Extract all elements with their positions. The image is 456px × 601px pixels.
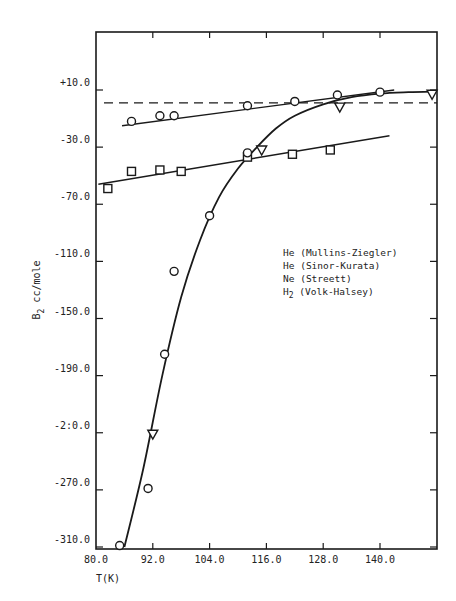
hexagon-circle-marker xyxy=(291,97,299,105)
h2-fit-curve xyxy=(124,91,436,547)
data-markers xyxy=(104,88,437,549)
square-marker xyxy=(177,167,185,175)
legend-entry: He (Mullins-Ziegler) xyxy=(283,247,397,258)
circle-marker xyxy=(161,350,169,358)
circle-marker xyxy=(206,212,214,220)
triangle-down-marker xyxy=(335,103,345,112)
circle-marker xyxy=(116,542,124,550)
hexagon-circle-marker xyxy=(170,112,178,120)
y-tick-label: -2:0.0 xyxy=(54,420,90,431)
y-tick-label: -110.0 xyxy=(54,248,90,259)
square-marker xyxy=(326,146,334,154)
legend-entry: Ne (Streett) xyxy=(283,273,352,284)
y-tick-label: -270.0 xyxy=(54,477,90,488)
triangle-down-marker xyxy=(427,90,437,99)
circle-marker xyxy=(243,149,251,157)
hexagon-circle-marker xyxy=(243,102,251,110)
hexagon-circle-marker xyxy=(333,91,341,99)
plot-border xyxy=(96,32,437,549)
x-tick-label: 128.0 xyxy=(308,554,338,565)
y-axis: +10.0-30.0-70.0-110.0-150.0-190.0-2:0.0-… xyxy=(54,77,437,547)
square-marker xyxy=(128,167,136,175)
triangle-down-marker xyxy=(257,146,267,155)
circle-marker xyxy=(144,484,152,492)
x-axis-title: T(K) xyxy=(96,573,120,584)
fit-lines xyxy=(98,90,436,547)
legend-entry: H2 (Volk-Halsey) xyxy=(283,286,374,300)
legend: He (Mullins-Ziegler)He (Sinor-Kurata)Ne … xyxy=(283,247,397,300)
hexagon-circle-marker xyxy=(128,117,136,125)
y-tick-label: -30.0 xyxy=(60,134,90,145)
x-tick-label: 92.0 xyxy=(141,554,165,565)
square-marker xyxy=(156,166,164,174)
x-tick-label: 116.0 xyxy=(251,554,281,565)
hexagon-circle-marker xyxy=(376,88,384,96)
svg-text:B2 cc/mole: B2 cc/mole xyxy=(31,260,46,319)
y-tick-label: -70.0 xyxy=(60,191,90,202)
y-tick-label: -310.0 xyxy=(54,534,90,545)
square-marker xyxy=(288,150,296,158)
x-tick-label: 140.0 xyxy=(365,554,395,565)
y-tick-label: -190.0 xyxy=(54,363,90,374)
x-tick-label: 80.0 xyxy=(84,554,108,565)
x-tick-label: 104.0 xyxy=(195,554,225,565)
x-axis: 80.092.0104.0116.0128.0140.0 xyxy=(84,32,395,565)
y-tick-label: +10.0 xyxy=(60,77,90,88)
chart: 80.092.0104.0116.0128.0140.0 +10.0-30.0-… xyxy=(0,0,456,601)
y-axis-title-rest: cc/mole xyxy=(31,260,42,308)
y-axis-title: B2 cc/mole xyxy=(31,260,46,319)
y-tick-label: -150.0 xyxy=(54,306,90,317)
legend-entry: He (Sinor-Kurata) xyxy=(283,260,380,271)
hexagon-circle-marker xyxy=(156,112,164,120)
square-marker xyxy=(104,185,112,193)
circle-marker xyxy=(170,267,178,275)
fit-line xyxy=(122,90,394,126)
plot-frame xyxy=(96,32,437,549)
